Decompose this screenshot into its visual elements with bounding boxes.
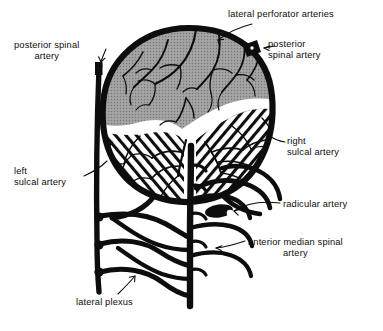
label-anterior-median-spinal-artery: anterior median spinal artery	[248, 237, 343, 259]
label-right-sulcal-artery: right sulcal artery	[287, 136, 339, 158]
label-radicular-artery: radicular artery	[283, 199, 347, 210]
label-left-sulcal-artery: left sulcal artery	[14, 166, 66, 188]
label-posterior-spinal-artery-left: posterior spinal artery	[14, 40, 79, 62]
label-posterior-spinal-artery-right: posterior spinal artery	[268, 39, 321, 61]
label-lateral-perforator-arteries: lateral perforator arteries	[228, 9, 334, 20]
label-lateral-plexus: lateral plexus	[76, 297, 133, 308]
left-posterior-spinal-trunk	[97, 68, 99, 292]
